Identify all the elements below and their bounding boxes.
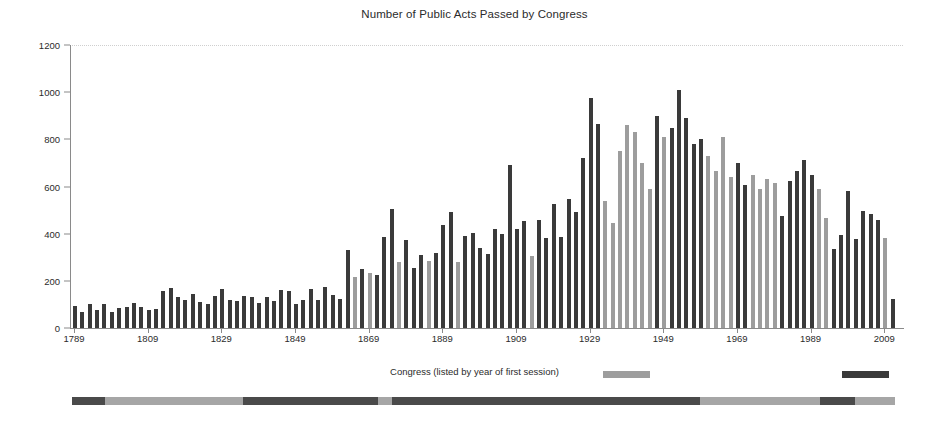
bar[interactable] (331, 295, 335, 328)
bar[interactable] (265, 297, 269, 328)
bar[interactable] (206, 304, 210, 328)
bar[interactable] (309, 289, 313, 328)
bar[interactable] (780, 216, 784, 328)
bar[interactable] (692, 144, 696, 328)
bar[interactable] (736, 163, 740, 328)
bar[interactable] (154, 309, 158, 328)
bar[interactable] (544, 238, 548, 328)
bar[interactable] (250, 297, 254, 328)
bar[interactable] (537, 220, 541, 328)
bar[interactable] (176, 297, 180, 328)
bar[interactable] (102, 304, 106, 328)
bar[interactable] (802, 160, 806, 328)
bar[interactable] (883, 238, 887, 328)
bar[interactable] (751, 175, 755, 328)
bar[interactable] (346, 250, 350, 328)
control-strip[interactable] (0, 397, 949, 405)
bar[interactable] (846, 191, 850, 328)
bar[interactable] (648, 189, 652, 328)
bar[interactable] (861, 211, 865, 328)
control-strip-segment[interactable] (105, 397, 243, 405)
bar[interactable] (795, 171, 799, 328)
bar[interactable] (603, 201, 607, 328)
bar[interactable] (191, 294, 195, 328)
control-strip-segment[interactable] (855, 397, 895, 405)
bar[interactable] (810, 175, 814, 328)
bar[interactable] (706, 156, 710, 328)
bar[interactable] (242, 296, 246, 328)
bar[interactable] (471, 233, 475, 329)
bar[interactable] (522, 221, 526, 328)
bar[interactable] (434, 253, 438, 328)
bar[interactable] (323, 287, 327, 328)
bar[interactable] (655, 116, 659, 328)
bar[interactable] (169, 288, 173, 328)
bar[interactable] (375, 275, 379, 328)
bar[interactable] (449, 212, 453, 328)
bar[interactable] (139, 307, 143, 328)
bar[interactable] (368, 273, 372, 328)
bar[interactable] (589, 98, 593, 328)
control-strip-segment[interactable] (443, 397, 700, 405)
bar[interactable] (596, 124, 600, 328)
bar[interactable] (338, 299, 342, 328)
bar[interactable] (88, 304, 92, 328)
bar[interactable] (729, 177, 733, 328)
bar[interactable] (294, 304, 298, 328)
control-strip-segment[interactable] (820, 397, 855, 405)
bar[interactable] (832, 249, 836, 328)
bar[interactable] (611, 223, 615, 328)
bar[interactable] (714, 171, 718, 328)
bar[interactable] (839, 235, 843, 328)
control-strip-segment[interactable] (700, 397, 820, 405)
control-strip-segment[interactable] (72, 397, 105, 405)
bar[interactable] (80, 312, 84, 329)
bar[interactable] (316, 300, 320, 328)
bar[interactable] (765, 179, 769, 328)
bar[interactable] (876, 220, 880, 328)
bar[interactable] (486, 254, 490, 328)
bar[interactable] (161, 291, 165, 328)
bar[interactable] (478, 248, 482, 328)
bar[interactable] (198, 302, 202, 328)
bar[interactable] (515, 229, 519, 328)
bar[interactable] (574, 212, 578, 328)
bar[interactable] (213, 296, 217, 328)
bar[interactable] (684, 118, 688, 328)
control-strip-segment[interactable] (392, 397, 443, 405)
bar[interactable] (891, 299, 895, 328)
bar[interactable] (404, 240, 408, 328)
bar[interactable] (677, 90, 681, 328)
bar[interactable] (110, 312, 114, 329)
bar[interactable] (235, 301, 239, 328)
bar[interactable] (788, 181, 792, 328)
bar[interactable] (117, 308, 121, 328)
control-strip-segment[interactable] (378, 397, 392, 405)
bar[interactable] (699, 139, 703, 328)
bar[interactable] (758, 189, 762, 328)
bar[interactable] (419, 255, 423, 328)
bar[interactable] (73, 306, 77, 328)
bar[interactable] (869, 214, 873, 328)
bar[interactable] (721, 137, 725, 328)
bar[interactable] (382, 237, 386, 328)
bar[interactable] (360, 269, 364, 328)
bar[interactable] (390, 209, 394, 328)
bar[interactable] (559, 237, 563, 328)
bar[interactable] (412, 268, 416, 328)
bar[interactable] (257, 303, 261, 328)
bar[interactable] (463, 236, 467, 328)
bar[interactable] (581, 158, 585, 328)
bar[interactable] (824, 218, 828, 328)
bar[interactable] (220, 289, 224, 328)
bar[interactable] (493, 229, 497, 328)
bar[interactable] (773, 183, 777, 328)
bar[interactable] (183, 300, 187, 328)
bar[interactable] (125, 307, 129, 328)
bar[interactable] (854, 239, 858, 328)
bar[interactable] (353, 277, 357, 328)
bar[interactable] (662, 137, 666, 328)
bar[interactable] (272, 301, 276, 328)
bar[interactable] (625, 125, 629, 328)
bar[interactable] (508, 165, 512, 328)
